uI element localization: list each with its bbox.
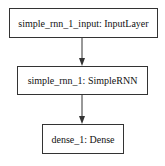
node-label: dense_1: Dense bbox=[51, 134, 114, 145]
node-label: simple_rnn_1_input: InputLayer bbox=[18, 18, 148, 29]
edge-input-to-rnn bbox=[79, 37, 85, 66]
node-simple-rnn: simple_rnn_1: SimpleRNN bbox=[17, 66, 148, 95]
node-label: simple_rnn_1: SimpleRNN bbox=[28, 75, 138, 86]
node-dense: dense_1: Dense bbox=[42, 124, 124, 154]
arrowhead-icon bbox=[79, 116, 85, 124]
edge-rnn-to-dense bbox=[79, 94, 85, 124]
arrowhead-icon bbox=[79, 58, 85, 66]
node-input-layer: simple_rnn_1_input: InputLayer bbox=[9, 8, 158, 38]
